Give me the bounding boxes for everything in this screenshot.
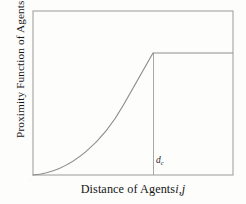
proximity-curve-rising bbox=[33, 53, 153, 175]
threshold-label-dc: dc bbox=[156, 155, 164, 165]
proximity-function-figure: Proximity Function of Agents i,j Distanc… bbox=[0, 0, 246, 204]
x-axis-title-text: Distance of Agents bbox=[81, 182, 176, 196]
plot-area bbox=[0, 0, 246, 204]
y-axis-title: Proximity Function of Agents i,j bbox=[14, 0, 26, 153]
threshold-subscript: c bbox=[161, 159, 164, 166]
plot-frame bbox=[33, 11, 233, 175]
x-axis-title-indices: i,j bbox=[175, 182, 185, 196]
y-axis-title-text: Proximity Function of Agents bbox=[14, 0, 26, 138]
x-axis-title: Distance of Agentsi,j bbox=[33, 182, 233, 197]
